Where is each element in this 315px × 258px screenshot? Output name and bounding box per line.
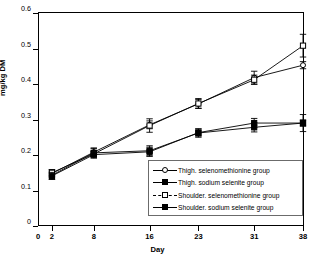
legend-item-2: Shoulder. selenomethionine group: [152, 189, 299, 202]
legend-item-1: Thigh. sodium selenite group: [152, 177, 299, 190]
chart-figure: 00.10.20.30.40.50.6 02816233138 mg/kg DM…: [0, 0, 315, 258]
legend-item-label: Shoulder. sodium selenite group: [178, 204, 274, 211]
legend-marker-icon: [152, 189, 178, 201]
data-point: [196, 101, 201, 106]
legend-item-label: Thigh. sodium selenite group: [178, 179, 264, 186]
legend-marker-icon: [152, 202, 178, 214]
legend-item-label: Shoulder. selenomethionine group: [178, 192, 280, 199]
chart-legend: Thigh. selenomethionine groupThigh. sodi…: [148, 160, 303, 216]
legend-item-3: Shoulder. sodium selenite group: [152, 202, 299, 215]
legend-marker-icon: [152, 177, 178, 189]
series-2: [49, 34, 306, 176]
legend-item-0: Thigh. selenomethionine group: [152, 164, 299, 177]
data-point: [252, 120, 257, 125]
data-point: [196, 130, 201, 135]
data-point: [147, 149, 152, 154]
series-line: [52, 46, 303, 173]
data-point: [147, 123, 152, 128]
legend-item-label: Thigh. selenomethionine group: [178, 167, 270, 174]
legend-marker-icon: [152, 164, 178, 176]
data-point: [300, 43, 305, 48]
data-point: [301, 63, 306, 68]
data-point: [252, 77, 257, 82]
data-point: [91, 152, 96, 157]
data-series-layer: [0, 0, 315, 258]
data-point: [300, 120, 305, 125]
data-point: [49, 173, 54, 178]
